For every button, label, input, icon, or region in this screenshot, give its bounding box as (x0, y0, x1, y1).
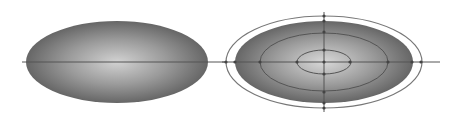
tick-point (322, 48, 325, 51)
tick-point (258, 60, 261, 63)
tick-point (233, 60, 236, 63)
tick-point (322, 106, 325, 109)
tick-point (322, 14, 325, 17)
tick-point (322, 19, 325, 22)
tick-point (386, 60, 389, 63)
tick-point (322, 60, 325, 63)
tick-point (348, 60, 351, 63)
tick-point (224, 60, 227, 63)
left-figure (22, 21, 227, 103)
tick-point (322, 90, 325, 93)
right-figure (222, 12, 440, 112)
tick-point (295, 60, 298, 63)
tick-point (322, 72, 325, 75)
tick-point (322, 101, 325, 104)
tick-point (419, 60, 422, 63)
ellipse-diagram (0, 0, 454, 122)
tick-point (322, 30, 325, 33)
tick-point (410, 60, 413, 63)
